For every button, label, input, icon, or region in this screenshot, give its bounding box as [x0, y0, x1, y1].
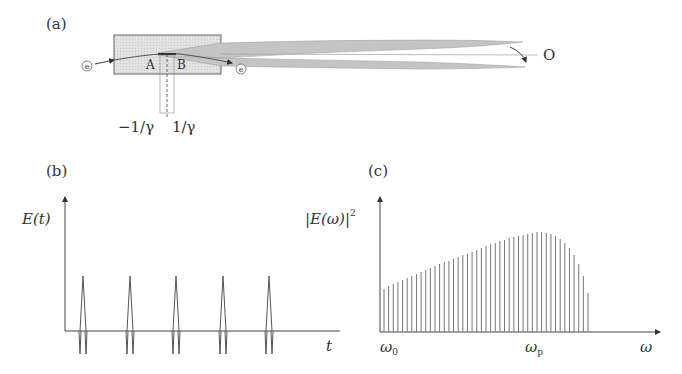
electron-path-in	[95, 60, 114, 64]
pulse	[265, 276, 273, 354]
b-ylabel: E(t)	[21, 210, 51, 228]
omega0-tick: ω0	[380, 338, 398, 357]
panel-c: (c) |E(ω)|2 ω ω0 ωp	[305, 162, 660, 357]
angle-pos-label: 1/γ	[172, 118, 196, 136]
pulse	[172, 276, 180, 354]
panel-a-label: (a)	[46, 15, 67, 33]
panel-a: (a) e e A B O −1/γ 1/γ	[46, 15, 555, 136]
pulse	[126, 276, 134, 354]
spectrum-lines	[384, 232, 588, 332]
point-b-label: B	[177, 58, 186, 72]
c-ylabel: |E(ω)|2	[305, 208, 356, 228]
angle-neg-label: −1/γ	[118, 118, 154, 136]
figure: (a) e e A B O −1/γ 1/γ	[0, 0, 682, 374]
svg-text:e: e	[239, 65, 244, 74]
b-xlabel: t	[326, 337, 333, 355]
pulse	[79, 276, 87, 354]
point-a-label: A	[145, 58, 155, 72]
panel-b-label: (b)	[46, 162, 67, 180]
observer-arrow	[510, 47, 526, 62]
svg-text:e: e	[85, 62, 90, 71]
observer-label: O	[543, 46, 555, 64]
panel-c-label: (c)	[368, 162, 388, 180]
pulse-train	[79, 276, 273, 354]
pulse	[219, 276, 227, 354]
electron-in: e	[82, 61, 92, 71]
panel-b: (b) E(t) t	[21, 162, 340, 355]
c-xlabel: ω	[640, 338, 652, 356]
omegap-tick: ωp	[525, 338, 543, 357]
electron-out: e	[236, 64, 246, 74]
